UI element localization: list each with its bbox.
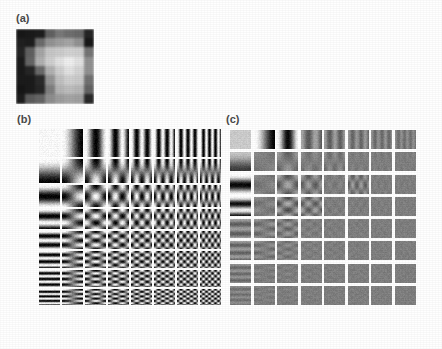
image-block-canvas <box>16 29 94 104</box>
panel-b-dct-basis-grid <box>38 128 222 306</box>
panel-a-image-block <box>16 29 94 104</box>
panel-a-label: (a) <box>16 12 29 24</box>
panel-c-weighted-dct-grid <box>228 128 416 306</box>
dct-basis-grid-canvas <box>38 128 222 306</box>
panel-b-label: (b) <box>17 113 31 125</box>
panel-c-label: (c) <box>226 113 239 125</box>
weighted-dct-grid-canvas <box>228 128 416 306</box>
figure-canvas: (a) (b) (c) <box>0 0 442 349</box>
